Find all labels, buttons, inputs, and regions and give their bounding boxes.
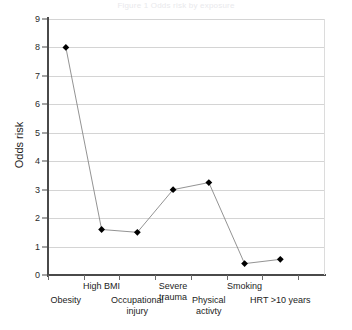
data-point-marker bbox=[62, 44, 69, 51]
y-tick-label: 8 bbox=[26, 42, 40, 52]
y-tick-label: 5 bbox=[26, 128, 40, 138]
x-tick-mark bbox=[84, 275, 85, 280]
y-tick-mark bbox=[42, 132, 47, 133]
y-tick-mark bbox=[42, 189, 47, 190]
x-tick-mark bbox=[298, 275, 299, 280]
data-point-marker bbox=[277, 256, 284, 263]
chart-figure: Figure 1 Odds risk by exposure Odds risk… bbox=[0, 0, 352, 330]
x-category-label: Physical activty bbox=[178, 295, 240, 316]
y-tick-mark bbox=[42, 218, 47, 219]
x-category-label: High BMI bbox=[71, 281, 133, 292]
x-category-label: Smoking bbox=[214, 281, 276, 292]
series-line bbox=[66, 47, 280, 263]
x-tick-mark bbox=[119, 275, 120, 280]
y-tick-label: 6 bbox=[26, 99, 40, 109]
y-tick-mark bbox=[42, 275, 47, 276]
y-tick-label: 0 bbox=[26, 270, 40, 280]
y-tick-label: 2 bbox=[26, 213, 40, 223]
data-point-marker bbox=[241, 260, 248, 267]
data-point-marker bbox=[205, 179, 212, 186]
x-tick-mark bbox=[262, 275, 263, 280]
x-category-label: Obesity bbox=[35, 295, 97, 306]
data-point-marker bbox=[98, 226, 105, 233]
x-tick-mark bbox=[227, 275, 228, 280]
y-tick-label: 4 bbox=[26, 156, 40, 166]
y-tick-label: 3 bbox=[26, 185, 40, 195]
y-tick-label: 9 bbox=[26, 14, 40, 24]
y-tick-mark bbox=[42, 246, 47, 247]
y-tick-label: 1 bbox=[26, 242, 40, 252]
y-tick-mark bbox=[42, 47, 47, 48]
y-tick-mark bbox=[42, 19, 47, 20]
x-tick-mark bbox=[48, 275, 49, 280]
y-tick-mark bbox=[42, 104, 47, 105]
y-tick-mark bbox=[42, 75, 47, 76]
y-tick-label: 7 bbox=[26, 71, 40, 81]
x-tick-mark bbox=[191, 275, 192, 280]
y-tick-mark bbox=[42, 161, 47, 162]
x-tick-mark bbox=[155, 275, 156, 280]
x-category-label: HRT >10 years bbox=[249, 295, 311, 306]
